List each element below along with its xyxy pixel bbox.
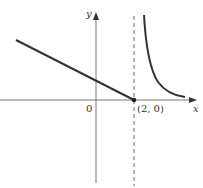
y-axis-arrow-icon — [93, 12, 99, 20]
point-2-0 — [132, 98, 137, 103]
y-axis-label: y — [86, 9, 92, 19]
x-axis-label: x — [193, 104, 199, 114]
y-axis — [93, 12, 99, 183]
function-graph — [0, 0, 203, 188]
point-label: (2, 0) — [137, 104, 164, 114]
origin-label: 0 — [86, 104, 92, 114]
hyperbola-curve — [144, 15, 185, 97]
x-axis — [0, 97, 197, 103]
line-segment — [16, 40, 134, 100]
